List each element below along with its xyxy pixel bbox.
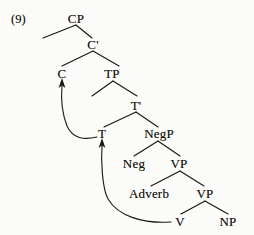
syntax-tree-figure: (9) (0, 0, 254, 235)
tree-node-c: C (58, 67, 67, 80)
branch-tp-tbar (113, 81, 137, 96)
branch-cbar-tp (93, 51, 119, 66)
tree-node-t: T (98, 127, 106, 140)
tree-node-np: NP (219, 215, 236, 228)
branch-vp1-adverb (151, 171, 180, 186)
branch-cp-spec (43, 25, 76, 38)
tree-node-neg: Neg (123, 157, 145, 170)
branch-tbar-t (104, 112, 136, 127)
branch-negp-neg (134, 141, 158, 156)
tree-node-v: V (175, 215, 185, 228)
tree-node-negp: NegP (144, 127, 174, 140)
branch-tp-spec (92, 81, 113, 96)
tree-node-c-bar: C' (87, 38, 98, 51)
tree-node-cp: CP (68, 12, 84, 25)
branch-vp2-np (205, 201, 228, 214)
branch-vp1-vp2 (180, 171, 204, 186)
branch-vp2-v (181, 201, 205, 214)
tree-node-adverb: Adverb (129, 187, 169, 200)
movement-arrow-group (62, 86, 171, 222)
branch-cbar-c (62, 51, 93, 66)
tree-node-tp: TP (104, 67, 120, 80)
tree-branch-lines (0, 0, 254, 235)
movement-arrow-t-to-c-path (62, 86, 97, 138)
tree-node-t-bar: T' (131, 99, 142, 112)
branch-negp-vp (158, 141, 180, 156)
tree-node-vp-upper: VP (170, 157, 187, 170)
tree-node-vp-lower: VP (196, 187, 213, 200)
